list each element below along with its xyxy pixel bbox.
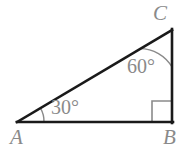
angle-arc-A <box>41 108 44 122</box>
angle-label-c-60-degrees: 60° <box>127 56 155 76</box>
vertex-label-a: A <box>10 127 23 148</box>
vertex-label-b: B <box>163 127 176 148</box>
geometry-figure: A B C 30° 60° <box>0 0 191 155</box>
vertex-label-c: C <box>153 3 167 24</box>
right-angle-marker-square <box>152 101 171 121</box>
angle-label-a-30-degrees: 30° <box>51 97 79 117</box>
